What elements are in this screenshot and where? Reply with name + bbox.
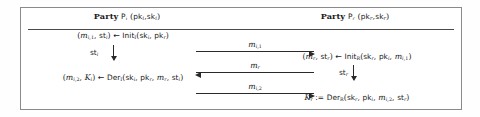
arrowhead-right-icon bbox=[309, 51, 315, 57]
initiator-der-expression: (mi,2, Ki) ← DerI(ski, pkr, mr, sti) bbox=[25, 73, 221, 82]
message-arrow-3-label: mi,2 bbox=[196, 82, 314, 91]
party-header-responder: Party Pr (pkr,skr) bbox=[257, 11, 453, 21]
party-word-responder: Party bbox=[321, 11, 346, 21]
arrowhead-right-icon bbox=[309, 93, 315, 99]
responder-state-down-arrow bbox=[353, 65, 354, 80]
message-arrow-1-label: mi,1 bbox=[196, 40, 314, 49]
initiator-state-down-arrow bbox=[113, 45, 114, 60]
protocol-diagram: Party Pi (pki,ski) Party Pr (pkr,skr) (m… bbox=[0, 0, 480, 117]
header-divider-rule bbox=[28, 29, 454, 30]
responder-state-label: str bbox=[339, 68, 348, 77]
diagram-body: (mi,1, sti) ← InitI(ski, pkr) sti (mi,2,… bbox=[21, 31, 461, 109]
party-word-initiator: Party bbox=[94, 11, 119, 21]
message-arrow-2-label: mr bbox=[196, 61, 314, 70]
party-keys-initiator: (pki,ski) bbox=[130, 11, 160, 21]
arrowhead-left-icon bbox=[195, 72, 201, 78]
party-symbol-initiator: Pi bbox=[121, 12, 127, 21]
party-header-initiator: Party Pi (pki,ski) bbox=[29, 11, 225, 21]
message-arrow-3: mi,2 bbox=[196, 79, 314, 95]
initiator-init-expression: (mi,1, sti) ← InitI(ski, pkr) bbox=[25, 31, 221, 40]
message-arrow-3-line bbox=[196, 93, 314, 94]
message-arrow-1: mi,1 bbox=[196, 37, 314, 53]
party-symbol-responder: Pr bbox=[348, 12, 355, 21]
initiator-state-label: sti bbox=[90, 48, 98, 57]
diagram-frame: Party Pi (pki,ski) Party Pr (pkr,skr) (m… bbox=[20, 7, 462, 110]
party-header-row: Party Pi (pki,ski) Party Pr (pkr,skr) bbox=[21, 11, 461, 29]
message-arrow-1-line bbox=[196, 51, 314, 52]
message-arrow-2-line bbox=[196, 72, 314, 73]
party-keys-responder: (pkr,skr) bbox=[358, 11, 390, 21]
message-arrow-2: mr bbox=[196, 58, 314, 74]
